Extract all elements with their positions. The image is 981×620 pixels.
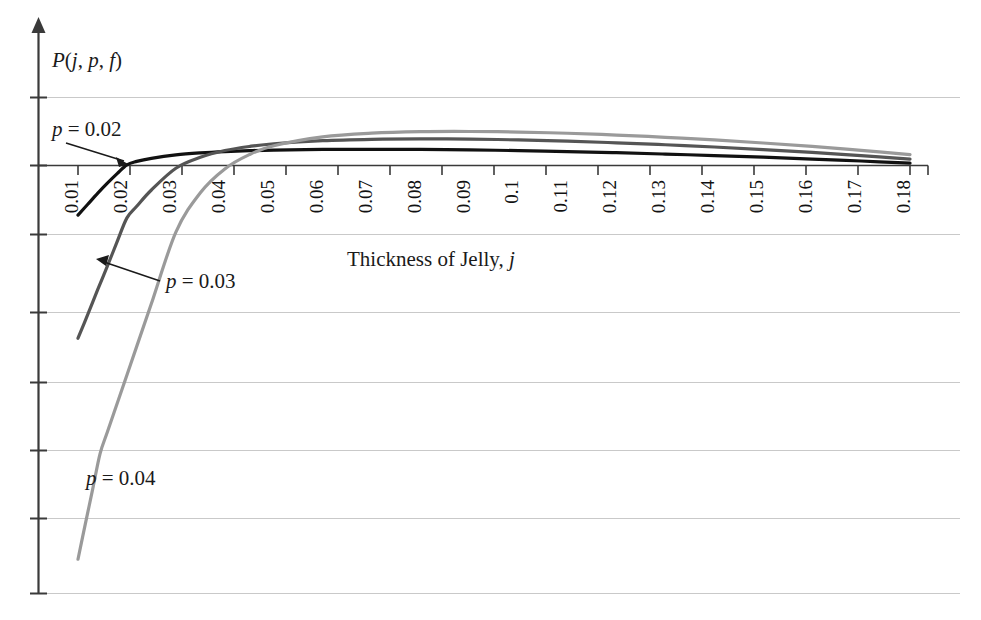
line-chart: 0.010.020.030.040.050.060.070.080.090.10…	[0, 0, 981, 620]
x-tick-label: 0.1	[501, 180, 522, 204]
x-tick-label: 0.12	[599, 180, 620, 213]
x-tick-label: 0.06	[306, 180, 327, 213]
annotation-p002-var: p	[50, 117, 63, 141]
chart-background	[0, 0, 981, 620]
x-tick-label: 0.03	[159, 180, 180, 213]
x-tick-label: 0.11	[550, 180, 571, 213]
x-tick-label: 0.15	[746, 180, 767, 213]
annotation-p002-label: p = 0.02	[50, 117, 122, 141]
y-axis-label-comma1: ,	[78, 48, 89, 72]
x-axis-label: Thickness of Jelly, j	[347, 247, 515, 271]
annotation-p003-var: p	[164, 269, 177, 293]
x-tick-label: 0.05	[257, 180, 278, 213]
y-axis-label-close: )	[115, 48, 122, 72]
x-tick-label: 0.17	[844, 180, 865, 213]
x-tick-label: 0.08	[404, 180, 425, 213]
annotation-p004-value: = 0.04	[102, 466, 156, 490]
x-tick-label: 0.16	[795, 180, 816, 213]
y-axis-label-open: (	[65, 48, 72, 72]
y-axis-label-p: p	[86, 48, 99, 72]
x-tick-label: 0.02	[110, 180, 131, 213]
x-tick-label: 0.13	[648, 180, 669, 213]
annotation-p004-var: p	[84, 466, 97, 490]
annotation-p002-value: = 0.02	[68, 117, 122, 141]
x-tick-label: 0.18	[893, 180, 914, 213]
annotation-p004: p = 0.04	[84, 466, 156, 490]
x-tick-label: 0.07	[355, 180, 376, 213]
x-tick-label: 0.01	[61, 180, 82, 213]
x-tick-label: 0.04	[208, 180, 229, 214]
x-tick-label: 0.09	[453, 180, 474, 213]
annotation-p003-value: = 0.03	[182, 269, 236, 293]
annotation-p003-label: p = 0.03	[164, 269, 236, 293]
annotation-p004-label: p = 0.04	[84, 466, 156, 490]
x-tick-label: 0.14	[697, 180, 718, 214]
chart-page: 0.010.020.030.040.050.060.070.080.090.10…	[0, 0, 981, 620]
x-axis-label-text: Thickness of Jelly,	[347, 247, 504, 271]
y-axis-label-P: P	[51, 48, 65, 72]
y-axis-label: P(j, p, f)	[51, 48, 122, 72]
y-axis-label-comma2: ,	[99, 48, 110, 72]
